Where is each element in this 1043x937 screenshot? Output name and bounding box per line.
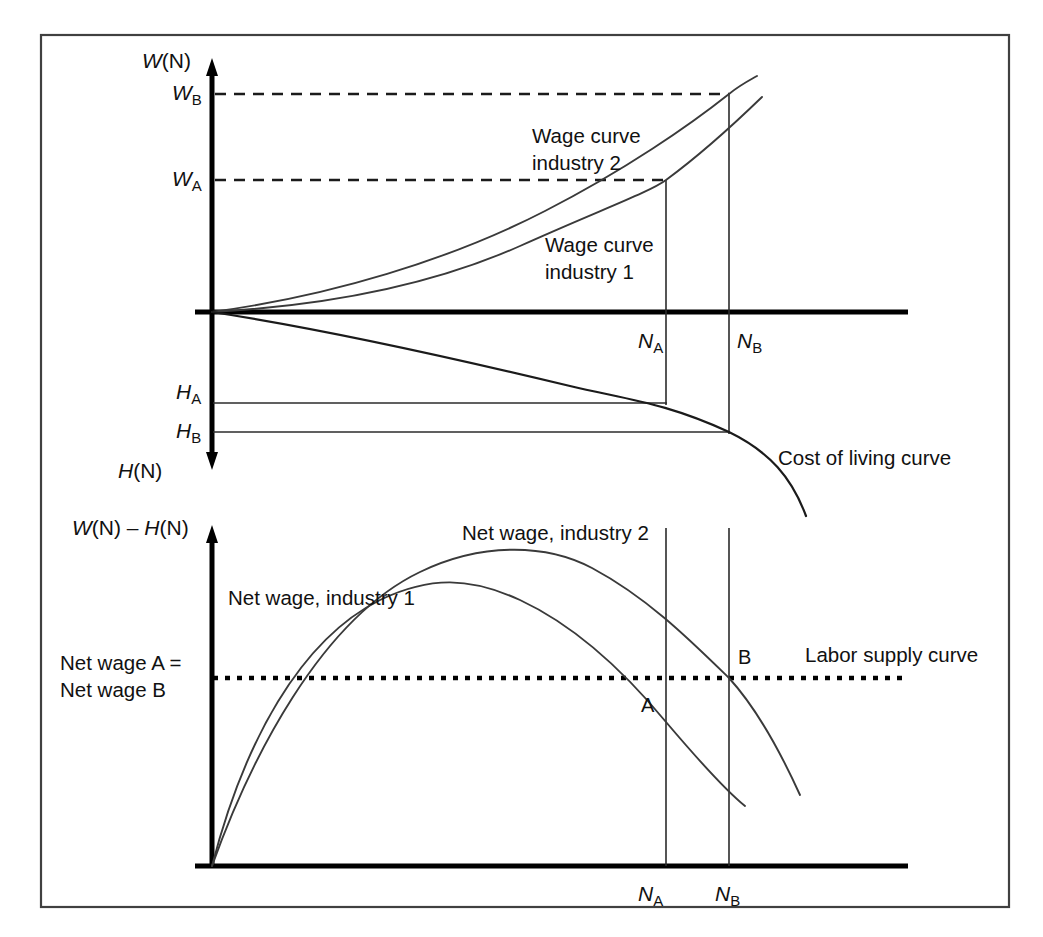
net-wage-curve-industry-1 [212,582,745,866]
hb-tick-label: HB [176,419,201,446]
na-tick-label-upper: NA [638,329,663,356]
nb-tick-label-upper: NB [737,329,762,356]
wa-tick-label: WA [172,167,202,194]
net-wage-1-label: Net wage, industry 1 [228,586,415,609]
net-wage-equality-line2: Net wage B [60,678,166,701]
point-a-label: A [641,694,655,716]
cost-of-living-curve [212,312,806,516]
h-axis-label: H(N) [118,459,162,482]
wage-curve-industry-1 [212,97,762,312]
economics-diagram: W(N) WB WA HA HB H(N) NA NB Wage curve i… [0,0,1043,937]
h-axis-arrowhead-icon [206,452,218,470]
ha-tick-label: HA [176,380,201,407]
wage-curve-1-label-line1: Wage curve [545,233,654,256]
net-wage-equality-line1: Net wage A = [60,651,181,674]
labor-supply-label: Labor supply curve [805,643,978,666]
point-b-label: B [738,646,751,668]
upper-y-axis-label: W(N) [142,49,191,72]
na-tick-label-lower: NA [638,882,663,909]
net-wage-2-label: Net wage, industry 2 [462,521,649,544]
lower-y-axis-label: W(N) – H(N) [72,516,189,539]
cost-of-living-label: Cost of living curve [778,446,951,469]
wage-curve-industry-2 [212,76,757,312]
wage-curve-2-label-line2: industry 2 [532,151,621,174]
lower-axis-arrowhead-icon [206,525,218,543]
wb-tick-label: WB [172,81,202,108]
wage-curve-1-label-line2: industry 1 [545,260,634,283]
w-axis-arrowhead-icon [206,58,218,76]
nb-tick-label-lower: NB [715,882,740,909]
wage-curve-2-label-line1: Wage curve [532,124,641,147]
figure-root: W(N) WB WA HA HB H(N) NA NB Wage curve i… [0,0,1043,937]
figure-frame [41,35,1009,907]
